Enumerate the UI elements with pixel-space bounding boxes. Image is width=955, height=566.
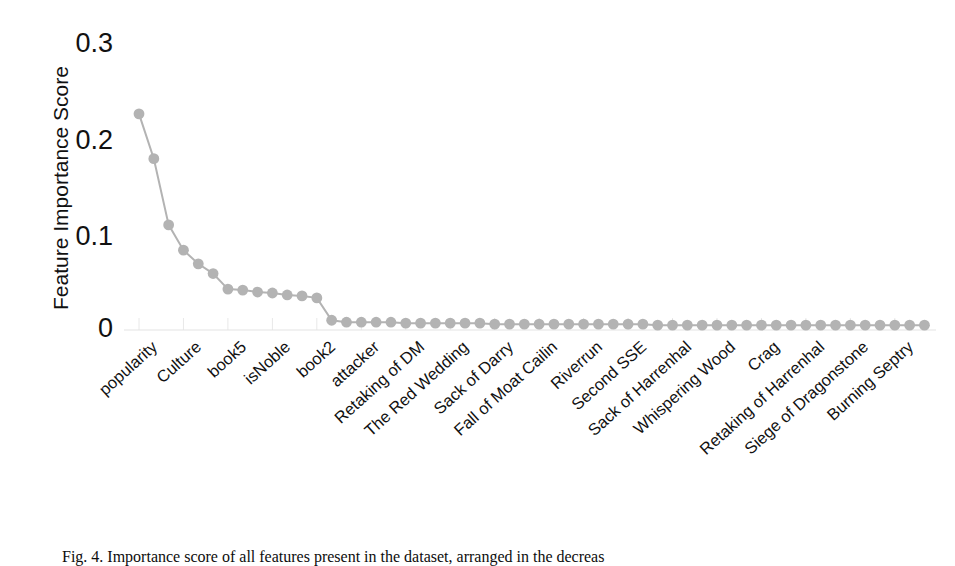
plot-area	[124, 24, 936, 332]
data-point	[519, 319, 530, 330]
data-point	[326, 315, 337, 326]
data-point	[415, 318, 426, 329]
x-axis-tick-labels: popularityCulturebook5isNoblebook2attack…	[0, 334, 955, 524]
series-markers	[134, 109, 930, 331]
line-chart-svg	[124, 24, 936, 332]
data-point	[356, 317, 367, 328]
data-point	[267, 288, 278, 299]
data-point	[667, 320, 678, 331]
data-point	[712, 320, 723, 331]
data-point	[741, 320, 752, 331]
data-point	[786, 320, 797, 331]
y-tick-label: 0.1	[55, 223, 113, 250]
data-point	[771, 320, 782, 331]
data-point	[297, 291, 308, 302]
data-point	[534, 319, 545, 330]
data-point	[163, 219, 174, 230]
data-point	[208, 268, 219, 279]
data-point	[430, 318, 441, 329]
data-point	[578, 319, 589, 330]
y-tick-label: 0.3	[55, 30, 113, 57]
data-point	[637, 319, 648, 330]
data-point	[460, 318, 471, 329]
data-point	[697, 320, 708, 331]
data-point	[608, 319, 619, 330]
data-point	[148, 153, 159, 164]
data-point	[237, 285, 248, 296]
data-point	[282, 290, 293, 301]
data-point	[371, 317, 382, 328]
data-point	[134, 109, 145, 120]
data-point	[445, 318, 456, 329]
data-point	[919, 320, 930, 331]
data-point	[341, 317, 352, 328]
data-point	[726, 320, 737, 331]
data-point	[474, 318, 485, 329]
data-point	[875, 320, 886, 331]
data-point	[489, 319, 500, 330]
y-axis-tick-labels: 0.3 0.2 0.1 0	[55, 0, 113, 340]
data-point	[593, 319, 604, 330]
data-point	[845, 320, 856, 331]
data-point	[252, 287, 263, 298]
data-point	[652, 320, 663, 331]
data-point	[815, 320, 826, 331]
data-point	[756, 320, 767, 331]
data-point	[860, 320, 871, 331]
data-point	[830, 320, 841, 331]
data-point	[563, 319, 574, 330]
data-point	[623, 319, 634, 330]
data-point	[193, 258, 204, 269]
data-point	[549, 319, 560, 330]
data-point	[311, 292, 322, 303]
data-point	[904, 320, 915, 331]
data-point	[386, 317, 397, 328]
data-point	[178, 245, 189, 256]
data-point	[400, 318, 411, 329]
y-tick-label: 0.2	[55, 127, 113, 154]
data-point	[801, 320, 812, 331]
figure-caption: Fig. 4. Importance score of all features…	[62, 548, 942, 566]
data-point	[682, 320, 693, 331]
data-point	[504, 319, 515, 330]
data-point	[223, 284, 234, 295]
data-point	[889, 320, 900, 331]
